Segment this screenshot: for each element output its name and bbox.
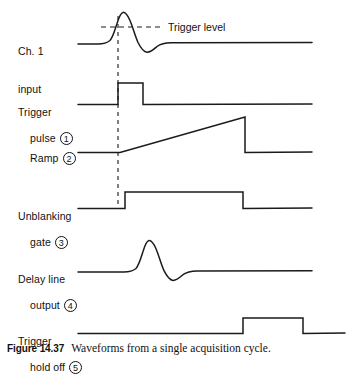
row-label-unblanking-gate-line1: Unblanking	[18, 210, 72, 223]
row-label-ch1-input-line1: Ch. 1	[18, 45, 44, 58]
waveform-delay-line-output	[78, 241, 312, 281]
callout-number-5: 5	[69, 361, 82, 374]
row-label-ramp-line1: Ramp	[30, 152, 58, 165]
figure-caption: Figure 14.37Waveforms from a single acqu…	[7, 342, 352, 354]
row-label-delay-line-output-line1: Delay line	[18, 273, 77, 286]
row-label-unblanking-gate-line2: gate	[30, 236, 51, 249]
row-label-trigger-hold-off-line2: hold off	[30, 361, 65, 374]
trigger-level-annotation: Trigger level	[168, 21, 225, 33]
row-label-ramp: Ramp2	[18, 139, 76, 178]
figure-caption-number: Figure 14.37	[7, 343, 64, 354]
waveform-trigger-pulse	[78, 83, 312, 105]
waveform-trigger-hold-off	[78, 318, 345, 334]
callout-number-2: 2	[63, 152, 76, 165]
callout-number-3: 3	[55, 236, 68, 249]
waveform-ramp	[78, 117, 312, 153]
waveform-unblanking-gate	[78, 192, 312, 209]
row-label-trigger-pulse-line1: Trigger	[18, 106, 73, 119]
figure-caption-text: Waveforms from a single acquisition cycl…	[71, 342, 271, 354]
